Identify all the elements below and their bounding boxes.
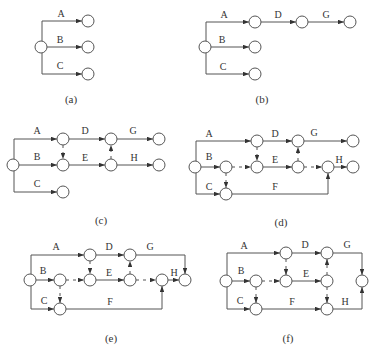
event-node bbox=[250, 275, 262, 287]
diagram-caption: (f) bbox=[283, 332, 294, 345]
event-node bbox=[82, 68, 94, 80]
event-node bbox=[251, 135, 263, 147]
event-node bbox=[24, 274, 36, 286]
event-node bbox=[54, 303, 66, 315]
event-node bbox=[124, 249, 136, 261]
diagram-caption: (a) bbox=[65, 93, 78, 106]
diagram-caption: (b) bbox=[256, 93, 269, 106]
activity-label: C bbox=[34, 178, 41, 189]
activity-label: A bbox=[33, 125, 41, 136]
activity-label: C bbox=[220, 61, 227, 72]
event-node bbox=[189, 161, 201, 173]
event-node bbox=[82, 15, 94, 27]
event-node bbox=[250, 303, 262, 315]
activity-label: H bbox=[335, 154, 342, 165]
diagram-caption: (d) bbox=[275, 216, 288, 229]
activity-arrow-a bbox=[206, 22, 249, 41]
event-node bbox=[347, 161, 359, 173]
activity-label: B bbox=[206, 151, 213, 162]
activity-label: C bbox=[237, 295, 244, 306]
event-node bbox=[220, 161, 232, 173]
event-node bbox=[292, 135, 304, 147]
activity-label: E bbox=[106, 267, 112, 278]
activity-arrow-f bbox=[66, 286, 162, 309]
activity-arrow-f bbox=[232, 173, 328, 194]
activity-arrow-c bbox=[206, 53, 249, 74]
activity-label: C bbox=[206, 181, 213, 192]
activity-label: G bbox=[146, 241, 153, 252]
event-node bbox=[292, 161, 304, 173]
event-node bbox=[249, 16, 261, 28]
event-node bbox=[84, 249, 96, 261]
activity-label: H bbox=[130, 152, 137, 163]
activity-label: E bbox=[82, 152, 88, 163]
activity-arrow-a bbox=[227, 253, 280, 275]
event-node bbox=[179, 274, 191, 286]
event-node bbox=[296, 16, 308, 28]
event-node bbox=[321, 247, 333, 259]
activity-label: F bbox=[107, 296, 113, 307]
event-node bbox=[321, 275, 333, 287]
event-node bbox=[249, 41, 261, 53]
activity-label: B bbox=[34, 151, 41, 162]
activity-label: A bbox=[52, 241, 60, 252]
activity-label: G bbox=[129, 125, 136, 136]
activity-label: F bbox=[289, 296, 295, 307]
activity-arrow-a bbox=[196, 141, 251, 161]
activity-label: A bbox=[240, 240, 248, 251]
event-node bbox=[54, 274, 66, 286]
event-node bbox=[220, 188, 232, 200]
activity-label: B bbox=[57, 34, 64, 45]
diagram-a: ABC(a) bbox=[35, 8, 94, 106]
event-node bbox=[199, 41, 211, 53]
event-node bbox=[57, 133, 69, 145]
activity-label: F bbox=[272, 181, 278, 192]
activity-label: D bbox=[274, 9, 281, 20]
activity-label: E bbox=[303, 268, 309, 279]
activity-label: A bbox=[220, 9, 228, 20]
event-node bbox=[82, 41, 94, 53]
event-node bbox=[280, 247, 292, 259]
activity-label: D bbox=[105, 241, 112, 252]
diagram-d: ADGBEHCF(d) bbox=[189, 127, 359, 229]
event-node bbox=[84, 274, 96, 286]
activity-label: G bbox=[310, 127, 317, 138]
activity-arrow-g bbox=[333, 253, 362, 275]
activity-label: H bbox=[170, 267, 177, 278]
event-node bbox=[57, 186, 69, 198]
event-node bbox=[57, 159, 69, 171]
diagram-caption: (c) bbox=[95, 214, 108, 227]
activity-label: G bbox=[343, 239, 350, 250]
activity-label: D bbox=[81, 125, 88, 136]
diagram-e: ADGBEHCF(e) bbox=[24, 241, 191, 345]
activity-label: D bbox=[301, 239, 308, 250]
event-node bbox=[7, 159, 19, 171]
event-node bbox=[280, 275, 292, 287]
event-node bbox=[153, 133, 165, 145]
activity-label: A bbox=[57, 8, 65, 19]
activity-label: C bbox=[41, 295, 48, 306]
diagram-caption: (e) bbox=[105, 332, 118, 345]
event-node bbox=[156, 274, 168, 286]
network-diagrams-canvas: ABC(a) ADGBC(b) ADGBEHC(c) ADGBEHCF(d) A… bbox=[0, 0, 376, 358]
event-node bbox=[356, 275, 368, 287]
event-node bbox=[105, 133, 117, 145]
event-node bbox=[220, 275, 232, 287]
event-node bbox=[347, 135, 359, 147]
diagram-c: ADGBEHC(c) bbox=[7, 125, 165, 227]
event-node bbox=[322, 161, 334, 173]
activity-label: C bbox=[57, 60, 64, 71]
activity-arrow-g bbox=[136, 255, 185, 274]
diagram-b: ADGBC(b) bbox=[199, 9, 356, 106]
event-node bbox=[124, 274, 136, 286]
activity-label: D bbox=[271, 128, 278, 139]
event-node bbox=[321, 303, 333, 315]
activity-label: B bbox=[238, 265, 245, 276]
event-node bbox=[344, 16, 356, 28]
activity-label: B bbox=[40, 265, 47, 276]
activity-label: H bbox=[341, 296, 348, 307]
diagram-f: ADGBECFH(f) bbox=[220, 239, 368, 345]
event-node bbox=[251, 161, 263, 173]
event-node bbox=[153, 159, 165, 171]
activity-label: B bbox=[219, 34, 226, 45]
